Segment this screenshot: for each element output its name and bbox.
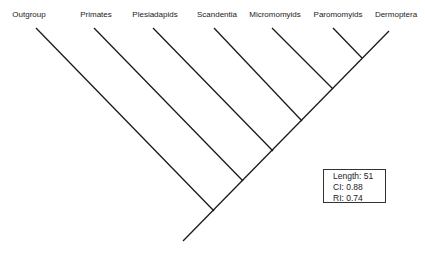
taxon-label-dermoptera: Dermoptera [375,10,417,19]
root-spine [183,31,389,241]
branch-primates [94,28,243,181]
consistency-index: CI: 0.88 [333,182,385,193]
branch-plesiadapids [153,28,273,151]
taxon-label-primates: Primates [80,10,112,19]
taxon-label-scandentia: Scandentia [197,10,237,19]
taxon-label-paromomyids: Paromomyids [314,10,363,19]
cladogram [0,0,425,255]
branch-scandentia [214,28,302,121]
tree-length: Length: 51 [333,171,385,182]
taxon-label-micromomyids: Micromomyids [249,10,301,19]
branch-outgroup [36,28,214,211]
tree-statistics-box: Length: 51 CI: 0.88 RI: 0.74 [323,169,386,203]
branch-paromomyids [333,28,362,58]
taxon-label-outgroup: Outgroup [12,10,45,19]
branch-micromomyids [272,28,333,89]
retention-index: RI: 0.74 [333,193,385,204]
taxon-label-plesiadapids: Plesiadapids [132,10,177,19]
